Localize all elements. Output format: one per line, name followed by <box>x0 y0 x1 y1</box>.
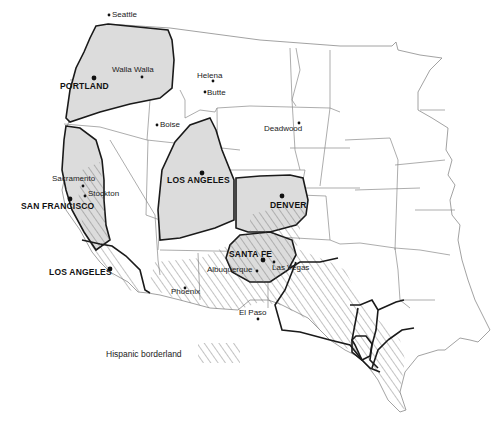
butte-dot <box>204 91 207 94</box>
seattle-dot <box>108 14 111 17</box>
legend-hatch-swatch <box>198 343 240 363</box>
sacramento-dot <box>82 185 85 188</box>
label-walla-walla: Walla Walla <box>112 66 154 74</box>
boise-dot <box>156 124 159 127</box>
label-stockton: Stockton <box>88 190 119 198</box>
label-seattle: Seattle <box>112 11 137 19</box>
label-san-francisco: SAN FRANCISCO <box>21 202 94 211</box>
portland-dot <box>92 76 97 81</box>
label-santa-fe: SANTA FE <box>229 250 272 259</box>
walla-walla-dot <box>141 76 144 79</box>
label-portland: PORTLAND <box>60 82 109 91</box>
label-salt-lake-city: LOS ANGELES <box>167 176 230 185</box>
helena-dot <box>212 80 215 83</box>
map: Seattle Walla Walla PORTLAND Helena Butt… <box>0 0 502 432</box>
stockton-dot <box>84 195 87 198</box>
el-paso-dot <box>257 318 260 321</box>
label-deadwood: Deadwood <box>264 125 302 133</box>
label-denver: DENVER <box>270 201 307 210</box>
label-las-vegas: Las Vegas <box>272 264 309 272</box>
map-canvas <box>0 0 502 432</box>
label-phoenix: Phoenix <box>171 288 200 296</box>
label-los-angeles: LOS ANGELES <box>49 268 112 277</box>
albuquerque-dot <box>256 270 259 273</box>
label-albuquerque: Albuquerque <box>207 266 252 274</box>
label-helena: Helena <box>197 72 222 80</box>
label-el-paso: El Paso <box>239 309 267 317</box>
denver-dot <box>280 194 285 199</box>
label-boise: Boise <box>160 121 180 129</box>
legend-label: Hispanic borderland <box>106 349 182 359</box>
label-sacramento: Sacramento <box>52 175 95 183</box>
label-butte: Butte <box>207 89 226 97</box>
